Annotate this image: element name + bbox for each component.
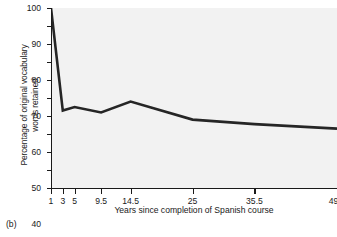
y-tick-mark: 50 bbox=[47, 98, 51, 99]
y-tick-label: 40 bbox=[31, 219, 41, 229]
y-tick-label: 50 bbox=[31, 183, 41, 193]
y-tick-label: 90 bbox=[31, 39, 41, 49]
x-axis-line bbox=[51, 188, 337, 189]
y-tick-mark: 80 bbox=[47, 44, 51, 45]
y-tick-mark: 100 bbox=[47, 8, 51, 9]
x-tick-mark bbox=[51, 189, 52, 194]
figure-panel: Percentage of original vocabulary words … bbox=[0, 0, 337, 237]
y-tick-label: 80 bbox=[31, 75, 41, 85]
panel-caption: (b) bbox=[6, 219, 17, 229]
y-axis-title-line-1: Percentage of original vocabulary bbox=[19, 45, 30, 166]
y-tick-label: 100 bbox=[27, 3, 41, 13]
y-axis-line bbox=[51, 8, 52, 188]
y-tick-mark: 20 bbox=[47, 152, 51, 153]
x-tick-mark bbox=[193, 189, 194, 194]
y-axis-title-line-2: words retained bbox=[30, 78, 41, 132]
line-chart-svg bbox=[51, 8, 337, 188]
plot-wrapper: 0102030405060708090100 1359.514.52535.54… bbox=[51, 8, 337, 188]
y-tick-mark: 40 bbox=[47, 116, 51, 117]
x-tick-mark bbox=[75, 189, 76, 194]
y-tick-mark: 10 bbox=[47, 170, 51, 171]
y-tick-mark: 70 bbox=[47, 62, 51, 63]
y-tick-mark: 90 bbox=[47, 26, 51, 27]
x-tick-mark bbox=[254, 189, 255, 194]
y-tick-mark: 30 bbox=[47, 134, 51, 135]
data-series-line bbox=[51, 8, 337, 129]
y-tick-label: 70 bbox=[31, 111, 41, 121]
x-tick-mark bbox=[63, 189, 64, 194]
x-tick-mark bbox=[131, 189, 132, 194]
x-axis-title: Years since completion of Spanish course bbox=[51, 205, 337, 215]
x-tick-mark bbox=[101, 189, 102, 194]
y-tick-mark: 60 bbox=[47, 80, 51, 81]
y-tick-label: 60 bbox=[31, 147, 41, 157]
